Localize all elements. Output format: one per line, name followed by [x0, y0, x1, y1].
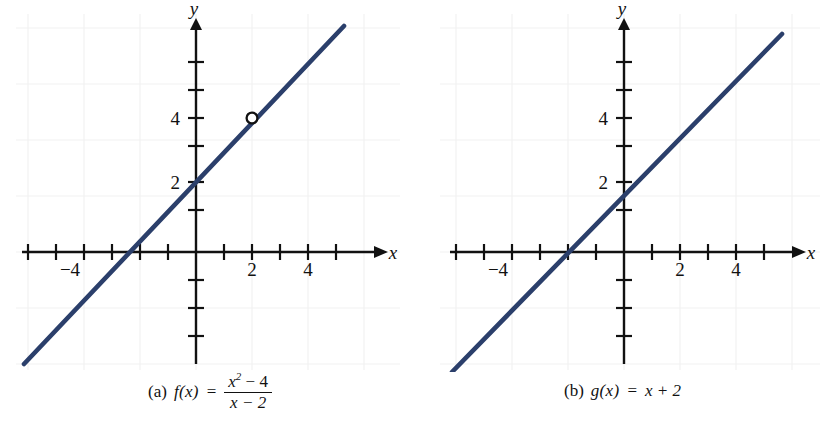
caption-expression-b: x + 2	[645, 382, 681, 401]
caption-equals-a: =	[206, 383, 218, 402]
caption-fraction-a: x2 − 4 x − 2	[224, 371, 272, 411]
caption-marker-b: (b)	[564, 382, 584, 401]
x-tick-label-neg4-a: −4	[60, 259, 81, 280]
y-axis-a	[190, 18, 202, 364]
y-axis-label-b: y	[616, 0, 627, 19]
caption-function-name-b: g(x)	[591, 382, 620, 401]
graph-b: x y −4 2 4 2 4	[420, 0, 825, 372]
y-tick-label-4-b: 4	[599, 108, 609, 129]
grid-lines-a	[16, 14, 400, 370]
panel-a: x y −4 2 4 2 4 (a) f(x) = x2 − 4 x − 2	[0, 0, 420, 435]
caption-b: (b) g(x) = x + 2	[420, 382, 825, 401]
caption-equals-b: =	[626, 382, 638, 401]
x-tick-label-2-a: 2	[247, 259, 257, 280]
fraction-numerator-a: x2 − 4	[224, 371, 272, 392]
x-axis-b	[450, 246, 806, 258]
function-line-a	[24, 26, 344, 364]
y-tick-label-4-a: 4	[171, 108, 181, 129]
x-axis-label-b: x	[806, 242, 816, 263]
caption-function-name-a: f(x)	[174, 383, 199, 402]
y-tick-label-2-a: 2	[171, 172, 181, 193]
x-axis-a	[22, 246, 388, 258]
x-tick-label-4-a: 4	[303, 259, 313, 280]
x-axis-label-a: x	[388, 242, 398, 263]
caption-a: (a) f(x) = x2 − 4 x − 2	[0, 372, 420, 412]
panel-b: x y −4 2 4 2 4 (b) g(x) = x + 2	[420, 0, 825, 435]
y-axis-label-a: y	[188, 0, 199, 19]
x-tick-label-4-b: 4	[731, 259, 741, 280]
open-circle-hole-icon	[247, 113, 258, 124]
y-tick-label-2-b: 2	[599, 172, 609, 193]
caption-marker-a: (a)	[148, 383, 167, 402]
numerator-tail-a: − 4	[246, 372, 268, 391]
graph-a: x y −4 2 4 2 4	[0, 0, 420, 372]
numerator-exponent-a: 2	[236, 370, 242, 382]
figure-container: x y −4 2 4 2 4 (a) f(x) = x2 − 4 x − 2	[0, 0, 825, 435]
function-line-b	[452, 34, 782, 372]
x-tick-label-neg4-b: −4	[488, 259, 509, 280]
x-tick-label-2-b: 2	[675, 259, 685, 280]
fraction-denominator-a: x − 2	[226, 393, 270, 412]
